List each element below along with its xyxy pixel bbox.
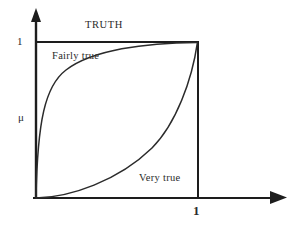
x-axis-tick-label-one: 1 bbox=[193, 204, 200, 217]
plot-canvas bbox=[0, 0, 299, 229]
curve-label-very-true: Very true bbox=[139, 173, 180, 184]
curve-label-fairly-true: Fairly true bbox=[52, 51, 99, 62]
y-axis-arrowhead bbox=[31, 8, 41, 22]
chart-title-truth: TRUTH bbox=[85, 20, 123, 31]
y-axis-label-mu: μ bbox=[18, 112, 24, 123]
figure-truth-fuzzy-hedges: TRUTH Fairly true Very true 1 μ 1 bbox=[0, 0, 299, 229]
y-axis-tick-label-one: 1 bbox=[17, 36, 23, 47]
x-axis-arrowhead bbox=[270, 191, 287, 204]
